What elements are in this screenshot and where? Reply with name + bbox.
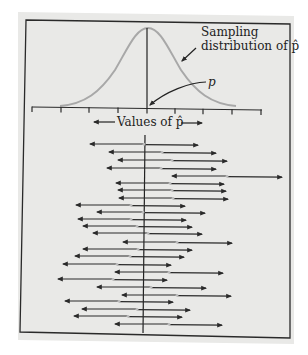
interval-right-arrow	[119, 302, 173, 303]
confidence-interval-figure: Sampling distribution of p̂ p Values of …	[0, 0, 308, 355]
p-hat-marker	[137, 248, 140, 251]
interval-right-arrow	[113, 280, 167, 281]
interval-right-arrow	[151, 288, 206, 289]
interval-right-arrow	[170, 184, 224, 185]
interval-right-arrow	[131, 206, 185, 207]
p-hat-marker	[171, 189, 174, 192]
p-hat-marker	[176, 241, 179, 244]
p-hat-marker	[116, 263, 119, 266]
p-label: p	[208, 75, 216, 89]
p-hat-marker	[169, 182, 172, 185]
interval-right-arrow	[137, 310, 190, 311]
p-hat-marker	[136, 308, 139, 311]
interval-right-arrow	[131, 220, 186, 221]
figure-panel	[18, 12, 294, 344]
p-hat-marker	[226, 175, 229, 178]
p-hat-marker	[143, 143, 146, 146]
p-hat-marker	[168, 271, 171, 274]
p-hat-marker	[112, 278, 115, 281]
interval-right-arrow	[161, 169, 216, 170]
interval-right-arrow	[117, 265, 171, 266]
interval-right-arrow	[138, 250, 192, 251]
interval-right-arrow	[148, 234, 202, 235]
p-hat-marker	[130, 204, 133, 207]
interval-right-arrow	[137, 227, 192, 228]
interval-right-arrow	[162, 153, 216, 154]
p-hat-marker	[171, 159, 174, 162]
p-hat-marker	[150, 286, 153, 289]
p-hat-marker	[176, 294, 179, 297]
p-hat-marker	[147, 232, 150, 235]
sampling-label-line1: Sampling	[201, 25, 259, 39]
interval-right-arrow	[128, 317, 182, 318]
interval-right-arrow	[227, 177, 282, 178]
interval-right-arrow	[144, 145, 198, 146]
p-hat-marker	[172, 197, 175, 200]
p-hat-marker	[160, 167, 163, 170]
p-hat-marker	[130, 218, 133, 221]
interval-right-arrow	[177, 296, 231, 297]
p-hat-marker	[142, 211, 145, 214]
p-hat-marker	[118, 300, 121, 303]
sampling-label-line2: distribution of p̂	[201, 39, 299, 53]
interval-right-arrow	[177, 243, 232, 244]
interval-right-arrow	[169, 273, 223, 274]
p-hat-marker	[161, 151, 164, 154]
p-hat-marker	[136, 225, 139, 228]
axis-label: Values of p̂	[116, 115, 184, 129]
interval-right-arrow	[169, 325, 222, 326]
p-hat-marker	[129, 255, 132, 258]
interval-right-arrow	[173, 199, 228, 200]
interval-right-arrow	[143, 213, 205, 214]
p-hat-marker	[168, 323, 171, 326]
interval-right-arrow	[172, 191, 226, 192]
interval-right-arrow	[130, 257, 184, 258]
interval-right-arrow	[172, 161, 227, 162]
p-hat-marker	[127, 315, 130, 318]
